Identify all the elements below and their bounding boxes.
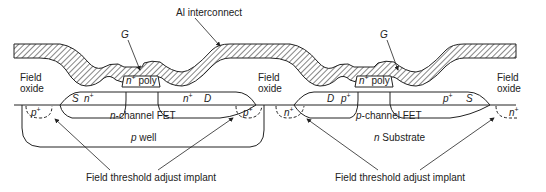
al-interconnect-arrow [195, 18, 220, 46]
nfet-source-label: S [72, 93, 79, 104]
implant-n-right-label: n+ [509, 106, 519, 118]
nfet-name-label: n-channel FET [110, 110, 176, 121]
field-oxide-mid-line1: Field [258, 72, 280, 83]
field-oxide-left-line1: Field [20, 72, 42, 83]
implant-n-left-label: n+ [284, 106, 294, 118]
field-oxide-left-line2: oxide [20, 83, 44, 94]
field-oxide-right-line1: Field [497, 72, 519, 83]
pfet-drain-pplus: p+ [340, 92, 351, 104]
implant-arrow-right-2 [420, 118, 494, 170]
implant-arrow-left-1 [55, 119, 110, 170]
implant-arrow-left-2 [158, 118, 233, 170]
cmos-cross-section-diagram: Al interconnect G G Field oxide Field ox… [0, 0, 546, 192]
al-interconnect-label: Al interconnect [176, 7, 242, 18]
nfet-drain-nplus: n+ [183, 92, 193, 104]
pfet-source-label: S [466, 93, 473, 104]
nfet-source-nplus: n+ [84, 92, 94, 104]
field-threshold-left-label: Field threshold adjust implant [86, 172, 216, 183]
field-oxide-mid-line2: oxide [258, 83, 282, 94]
implant-p-right-label: p+ [242, 106, 253, 118]
field-oxide-right-line2: oxide [497, 83, 521, 94]
p-well-label: p well [130, 132, 157, 143]
gate-left-label: G [121, 29, 129, 40]
field-threshold-right-label: Field threshold adjust implant [335, 172, 465, 183]
gate-right-label: G [380, 29, 388, 40]
poly-left-label: n+ poly [126, 74, 157, 86]
n-substrate-label: n Substrate [374, 132, 426, 143]
poly-right-label: n+ poly [359, 74, 390, 86]
gate-left-arrow [128, 40, 140, 70]
implant-arrow-right-1 [307, 119, 378, 170]
pfet-name-label: p-channel FET [355, 110, 422, 121]
pfet-source-pplus: p+ [442, 92, 453, 104]
nfet-drain-label: D [204, 93, 211, 104]
implant-p-left-label: p+ [30, 106, 41, 118]
pfet-drain-label: D [327, 93, 334, 104]
